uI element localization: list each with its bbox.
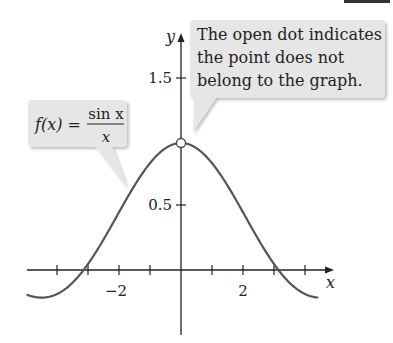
x-tick-label-minus2: −2	[105, 282, 127, 300]
y-axis: 1.5 0.5 y	[148, 27, 186, 335]
y-axis-label: y	[165, 27, 176, 46]
x-axis-label: x	[326, 273, 335, 292]
formula-numerator: sin x	[88, 105, 124, 123]
y-tick-label-1-5: 1.5	[148, 69, 172, 87]
page-edge-bar	[344, 0, 390, 3]
chart-canvas: The open dot indicates the point does no…	[0, 0, 393, 343]
x-tick-label-2: 2	[238, 282, 248, 300]
formula-denominator: x	[102, 128, 111, 146]
note-line-3: belong to the graph.	[197, 71, 363, 90]
y-axis-arrow-icon	[178, 33, 185, 42]
note-line-2: the point does not	[197, 48, 345, 67]
y-tick-label-0-5: 0.5	[148, 196, 172, 214]
formula-lhs: f(x) =	[34, 115, 81, 134]
note-line-1: The open dot indicates	[197, 25, 382, 44]
open-dot	[177, 139, 186, 148]
